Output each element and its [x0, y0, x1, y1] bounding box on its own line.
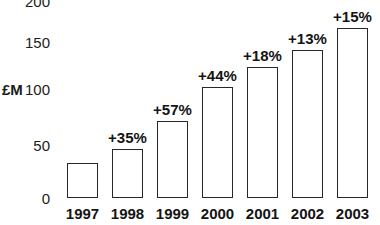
bar-chart: £M 200 150 100 50 0 1997+35%1998+57%1999…	[0, 0, 380, 225]
bar-annotation-2003: +15%	[328, 9, 377, 24]
x-axis-tick-1999: 1999	[148, 206, 197, 221]
bar-annotation-2002: +13%	[283, 31, 332, 46]
x-axis-tick-2003: 2003	[328, 206, 377, 221]
bar-2000	[202, 87, 233, 198]
plot-area: 1997+35%1998+57%1999+44%2000+18%2001+13%…	[0, 0, 380, 225]
bar-2002	[292, 50, 323, 198]
bar-annotation-1998: +35%	[103, 130, 152, 145]
bar-annotation-1999: +57%	[148, 102, 197, 117]
bar-annotation-2000: +44%	[193, 68, 242, 83]
bar-1999	[157, 121, 188, 198]
x-axis-tick-1997: 1997	[58, 206, 107, 221]
x-axis-tick-2002: 2002	[283, 206, 332, 221]
bar-2001	[247, 67, 278, 198]
x-axis-tick-2001: 2001	[238, 206, 287, 221]
bar-2003	[337, 28, 368, 198]
bar-1998	[112, 149, 143, 198]
bar-1997	[67, 163, 98, 198]
bar-annotation-2001: +18%	[238, 48, 287, 63]
x-axis-tick-1998: 1998	[103, 206, 152, 221]
x-axis-tick-2000: 2000	[193, 206, 242, 221]
